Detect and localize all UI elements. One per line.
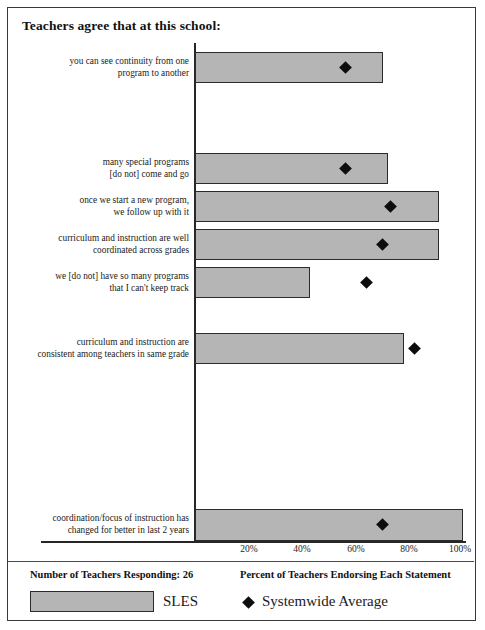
bar-sles bbox=[195, 229, 439, 260]
row-label-line1: many special programs bbox=[0, 157, 189, 169]
row-label-line2: program to another bbox=[0, 68, 189, 80]
respondent-count: Number of Teachers Responding: 26 bbox=[30, 569, 193, 580]
row-label-line2: that I can't keep track bbox=[0, 283, 189, 295]
bar-sles bbox=[195, 52, 383, 83]
row-label-line1: curriculum and instruction are well bbox=[0, 233, 189, 245]
row-label: curriculum and instruction are consisten… bbox=[0, 337, 189, 360]
row-label: coordination/focus of instruction has ch… bbox=[0, 513, 189, 536]
row-label-line1: you can see continuity from one bbox=[0, 56, 189, 68]
legend-marker-label: Systemwide Average bbox=[262, 593, 388, 610]
row-label: we [do not] have so many programs that I… bbox=[0, 271, 189, 294]
row-label: you can see continuity from one program … bbox=[0, 56, 189, 79]
footer-divider bbox=[8, 561, 474, 562]
row-label: once we start a new program, we follow u… bbox=[0, 195, 189, 218]
row-label-line2: changed for better in last 2 years bbox=[0, 525, 189, 537]
bar-sles bbox=[195, 333, 404, 364]
row-label-line2: [do not] come and go bbox=[0, 169, 189, 181]
axis-caption: Percent of Teachers Endorsing Each State… bbox=[240, 569, 451, 580]
x-tick-label: 80% bbox=[400, 544, 417, 554]
row-label: curriculum and instruction are well coor… bbox=[0, 233, 189, 256]
plot-area: you can see continuity from one program … bbox=[8, 35, 474, 540]
bar-sles bbox=[195, 267, 310, 298]
marker-systemwide-average bbox=[408, 342, 421, 355]
row-label: many special programs [do not] come and … bbox=[0, 157, 189, 180]
x-tick-label: 20% bbox=[240, 544, 257, 554]
bar-sles bbox=[195, 509, 463, 541]
x-tick-label: 60% bbox=[347, 544, 364, 554]
legend-bar-swatch bbox=[30, 591, 154, 612]
x-tick-label: 40% bbox=[293, 544, 310, 554]
row-label-line2: consistent among teachers in same grade bbox=[0, 349, 189, 361]
bar-sles bbox=[195, 153, 388, 184]
x-axis-tick-labels: 20% 40% 60% 80% 100% bbox=[8, 544, 474, 560]
bar-sles bbox=[195, 191, 439, 222]
page-title: Teachers agree that at this school: bbox=[22, 18, 221, 34]
row-label-line1: we [do not] have so many programs bbox=[0, 271, 189, 283]
marker-systemwide-average bbox=[360, 276, 373, 289]
x-tick-label: 100% bbox=[449, 544, 471, 554]
row-label-line1: once we start a new program, bbox=[0, 195, 189, 207]
row-label-line2: coordinated across grades bbox=[0, 245, 189, 257]
chart-frame: Teachers agree that at this school: you … bbox=[7, 7, 476, 621]
legend-bar-label: SLES bbox=[163, 593, 198, 610]
row-label-line1: coordination/focus of instruction has bbox=[0, 513, 189, 525]
row-label-line1: curriculum and instruction are bbox=[0, 337, 189, 349]
row-label-line2: we follow up with it bbox=[0, 207, 189, 219]
x-axis-baseline bbox=[41, 541, 466, 543]
diamond-icon bbox=[242, 596, 255, 609]
